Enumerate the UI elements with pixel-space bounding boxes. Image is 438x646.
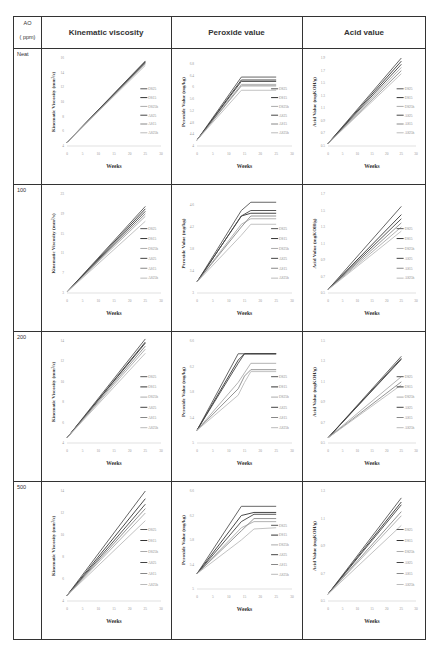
svg-text:Acid Value (mgKOH/g): Acid Value (mgKOH/g) <box>312 218 317 268</box>
svg-text:30: 30 <box>290 595 294 599</box>
svg-text:15: 15 <box>112 152 116 156</box>
svg-text:25: 25 <box>274 152 278 156</box>
svg-text:Weeks: Weeks <box>237 460 252 466</box>
column-header-kinematic-viscosity: Kinematic viscosity <box>41 17 171 48</box>
svg-text:10: 10 <box>61 533 65 537</box>
svg-text:10: 10 <box>61 100 65 104</box>
svg-text:30: 30 <box>159 449 163 453</box>
svg-text:20: 20 <box>259 595 263 599</box>
svg-text:30: 30 <box>290 152 294 156</box>
svg-text:AS25: AS25 <box>148 257 156 261</box>
chart-200-acid-value: 0510152025300.50.70.91.11.31.5Acid Value… <box>302 331 426 481</box>
svg-text:10: 10 <box>356 299 360 303</box>
svg-text:5: 5 <box>212 152 214 156</box>
svg-text:OS15: OS15 <box>279 237 287 241</box>
svg-text:AS25h: AS25h <box>405 131 415 135</box>
svg-text:0.5: 0.5 <box>321 291 326 295</box>
svg-text:OS25: OS25 <box>148 227 156 231</box>
svg-text:1.9: 1.9 <box>321 56 326 60</box>
svg-text:1.5: 1.5 <box>321 209 326 213</box>
svg-text:AS25h: AS25h <box>148 131 158 135</box>
svg-text:AS15: AS15 <box>405 572 413 576</box>
svg-text:AS25: AS25 <box>405 561 413 565</box>
svg-text:30: 30 <box>414 299 418 303</box>
chart-neat-peroxide-value: 05101520253044.44.85.25.666.46.8Peroxide… <box>171 48 302 184</box>
svg-text:12: 12 <box>61 359 65 363</box>
svg-text:OS25: OS25 <box>148 375 156 379</box>
svg-text:30: 30 <box>159 152 163 156</box>
svg-text:AS25h: AS25h <box>148 276 158 280</box>
svg-text:4: 4 <box>62 144 64 148</box>
results-table: AO ( ppm) Kinematic viscosity Peroxide v… <box>13 16 426 640</box>
svg-text:20: 20 <box>128 152 132 156</box>
svg-text:25: 25 <box>274 449 278 453</box>
svg-text:Weeks: Weeks <box>364 310 379 316</box>
svg-text:1.3: 1.3 <box>321 225 326 229</box>
svg-text:AS25: AS25 <box>405 406 413 410</box>
svg-text:AS15: AS15 <box>148 122 156 126</box>
svg-text:OS25h: OS25h <box>148 105 158 109</box>
svg-text:11: 11 <box>61 251 65 255</box>
chart-neat-acid-value: 0510152025300.50.70.91.11.31.51.71.9Acid… <box>302 48 426 184</box>
svg-text:0.7: 0.7 <box>321 131 326 135</box>
svg-text:6.4: 6.4 <box>190 74 195 78</box>
svg-text:Acid Value (mgKOH/g): Acid Value (mgKOH/g) <box>312 521 317 571</box>
svg-text:OS25h: OS25h <box>279 105 289 109</box>
svg-text:AS25h: AS25h <box>405 583 415 587</box>
svg-text:5: 5 <box>192 587 194 591</box>
svg-text:20: 20 <box>259 449 263 453</box>
svg-text:Peroxide Value (mg/kg): Peroxide Value (mg/kg) <box>181 218 186 268</box>
chart-100-kinematic-viscosity: 0510152025303711151923Kinematic Viscosit… <box>41 184 171 331</box>
svg-text:25: 25 <box>400 607 404 611</box>
svg-text:0: 0 <box>196 449 198 453</box>
svg-text:AS25h: AS25h <box>279 573 289 577</box>
svg-text:25: 25 <box>144 152 148 156</box>
svg-text:14: 14 <box>61 71 65 75</box>
svg-text:20: 20 <box>128 299 132 303</box>
svg-text:1.7: 1.7 <box>321 69 326 73</box>
svg-text:6.2: 6.2 <box>190 514 195 518</box>
svg-text:OS25: OS25 <box>405 227 413 231</box>
svg-text:10: 10 <box>227 152 231 156</box>
svg-text:6: 6 <box>62 129 64 133</box>
svg-text:14: 14 <box>61 339 65 343</box>
svg-text:AS15: AS15 <box>279 122 287 126</box>
svg-text:OS15: OS15 <box>279 385 287 389</box>
svg-text:AS25h: AS25h <box>148 426 158 430</box>
chart-neat-kinematic-viscosity: 05101520253046810121416Kinematic Viscosi… <box>41 48 171 184</box>
svg-text:AS25h: AS25h <box>148 583 158 587</box>
svg-text:25: 25 <box>274 299 278 303</box>
svg-text:OS15: OS15 <box>279 533 287 537</box>
svg-text:0: 0 <box>196 152 198 156</box>
svg-text:AS25: AS25 <box>148 561 156 565</box>
svg-text:4.6: 4.6 <box>190 203 195 207</box>
svg-text:25: 25 <box>400 299 404 303</box>
svg-text:25: 25 <box>144 607 148 611</box>
svg-text:AS15: AS15 <box>405 122 413 126</box>
svg-text:Weeks: Weeks <box>364 618 379 624</box>
svg-text:0.5: 0.5 <box>321 441 326 445</box>
svg-text:OS25: OS25 <box>148 528 156 532</box>
svg-text:25: 25 <box>144 449 148 453</box>
row-label-200: 200 <box>17 334 26 340</box>
svg-text:AS15: AS15 <box>279 563 287 567</box>
svg-text:Weeks: Weeks <box>364 163 379 169</box>
svg-text:5.8: 5.8 <box>190 390 195 394</box>
svg-text:6.6: 6.6 <box>190 489 195 493</box>
svg-text:AS25: AS25 <box>148 406 156 410</box>
svg-text:0: 0 <box>66 299 68 303</box>
svg-text:0.7: 0.7 <box>321 421 326 425</box>
svg-text:AS25: AS25 <box>279 257 287 261</box>
svg-text:5: 5 <box>82 449 84 453</box>
svg-text:AS25: AS25 <box>405 114 413 118</box>
svg-text:OS15: OS15 <box>405 539 413 543</box>
svg-text:15: 15 <box>61 232 65 236</box>
svg-text:0.7: 0.7 <box>321 572 326 576</box>
svg-text:0: 0 <box>327 607 329 611</box>
svg-text:8: 8 <box>62 400 64 404</box>
svg-text:OS25h: OS25h <box>148 550 158 554</box>
svg-text:25: 25 <box>144 299 148 303</box>
svg-text:4.4: 4.4 <box>190 132 195 136</box>
svg-text:10: 10 <box>356 449 360 453</box>
svg-text:OS25: OS25 <box>405 87 413 91</box>
